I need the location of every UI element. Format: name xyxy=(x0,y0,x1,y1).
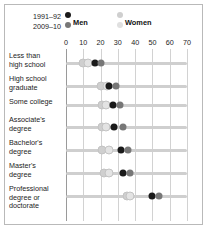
row-label-line: graduate xyxy=(9,84,61,93)
legend-dot-women-new xyxy=(117,22,123,28)
row-label: Less thanhigh school xyxy=(9,52,61,69)
x-tick-label: 0 xyxy=(64,38,68,47)
data-point-men_new xyxy=(113,83,120,90)
data-point-women_new xyxy=(105,169,114,178)
row-label-line: high school xyxy=(9,61,61,70)
chart-row: Associate'sdegree xyxy=(5,116,204,140)
row-label: Master'sdegree xyxy=(9,162,61,179)
x-tick-label: 40 xyxy=(131,38,139,47)
chart-frame: 1991–92 2009–10 MenWomen 010203040506070… xyxy=(4,4,203,225)
data-point-women_new xyxy=(125,192,134,201)
x-tick-label: 60 xyxy=(166,38,174,47)
legend-label-women: Women xyxy=(125,18,152,27)
row-label-line: degree xyxy=(9,148,61,157)
legend-dot-men-old xyxy=(65,12,71,18)
data-point-women_new xyxy=(101,123,110,132)
data-point-men_new xyxy=(120,124,127,131)
legend-dot-men-new xyxy=(65,22,71,28)
row-track xyxy=(66,104,187,107)
chart-row: Master'sdegree xyxy=(5,162,204,186)
data-point-men_new xyxy=(116,102,123,109)
data-point-men_old xyxy=(111,124,118,131)
chart-legend: 1991–92 2009–10 MenWomen xyxy=(13,12,198,38)
chart-row: Professionaldegree ordoctorate xyxy=(5,185,204,209)
x-tick-label: 10 xyxy=(79,38,87,47)
data-point-men_new xyxy=(126,170,133,177)
row-label-line: doctorate xyxy=(9,202,61,211)
data-point-women_new xyxy=(105,146,114,155)
legend-year-labels: 1991–92 2009–10 xyxy=(13,12,61,31)
row-label: Professionaldegree ordoctorate xyxy=(9,185,61,211)
x-tick-label: 30 xyxy=(114,38,122,47)
row-label-line: degree xyxy=(9,171,61,180)
data-point-men_new xyxy=(156,193,163,200)
row-track xyxy=(66,85,187,88)
x-tick-label: 50 xyxy=(148,38,156,47)
row-label: Associate'sdegree xyxy=(9,116,61,133)
plot-rows: Less thanhigh schoolHigh schoolgraduateS… xyxy=(5,50,204,220)
data-point-men_new xyxy=(125,147,132,154)
chart-row: Bachelor'sdegree xyxy=(5,139,204,163)
x-tick-label: 20 xyxy=(97,38,105,47)
legend-dot-women-old xyxy=(117,12,123,18)
chart-row: High schoolgraduate xyxy=(5,75,204,99)
row-label-line: Some college xyxy=(9,98,61,107)
x-axis-tick-labels: 010203040506070 xyxy=(5,38,204,50)
row-label: Some college xyxy=(9,98,61,107)
data-point-men_new xyxy=(97,60,104,67)
chart-row: Less thanhigh school xyxy=(5,52,204,76)
row-label-line: degree xyxy=(9,125,61,134)
legend-label-men: Men xyxy=(73,18,88,27)
legend-year-old: 1991–92 xyxy=(13,12,61,22)
row-label: Bachelor'sdegree xyxy=(9,139,61,156)
x-tick-label: 70 xyxy=(183,38,191,47)
legend-year-new: 2009–10 xyxy=(13,22,61,32)
row-label: High schoolgraduate xyxy=(9,75,61,92)
